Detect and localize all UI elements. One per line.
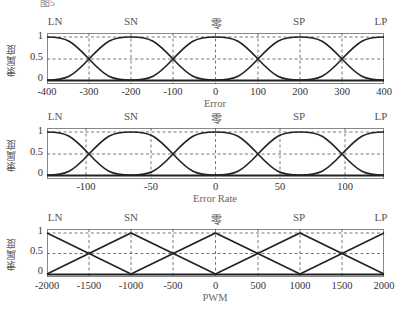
- x-tick: -500: [163, 280, 182, 291]
- plot-pwm: [47, 229, 384, 277]
- x-tick: 2000: [374, 280, 395, 291]
- x-tick: 500: [250, 280, 266, 291]
- x-axis-label: PWM: [202, 292, 227, 303]
- mf-label-ln: LN: [48, 211, 63, 223]
- y-tick-1: 1: [15, 225, 43, 236]
- mf-label-zero: 零: [211, 211, 222, 227]
- x-tick: 1000: [290, 280, 311, 291]
- y-tick-05: 0.5: [15, 245, 43, 256]
- x-tick: 0: [213, 280, 218, 291]
- x-tick: 1500: [332, 280, 353, 291]
- x-tick: -1000: [119, 280, 144, 291]
- mf-label-lp: LP: [375, 211, 388, 223]
- x-tick: -2000: [35, 280, 60, 291]
- y-tick-0: 0: [15, 265, 43, 276]
- mf-label-sp: SP: [293, 211, 305, 223]
- mf-label-sn: SN: [124, 211, 138, 223]
- x-tick: -1500: [77, 280, 102, 291]
- panel-pwm: LN SN 零 SP LP 隶属度 1 0.5 0 -2000 -1500 -1…: [0, 0, 405, 318]
